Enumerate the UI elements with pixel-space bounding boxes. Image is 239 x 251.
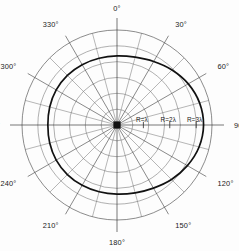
spoke-315deg	[50, 58, 117, 125]
angle-label-0: 0°	[113, 4, 120, 13]
spoke-45deg	[117, 58, 184, 125]
angle-label-120: 120°	[217, 179, 233, 188]
angle-label-150: 150°	[175, 221, 191, 230]
radial-label-1: R=λ	[136, 116, 149, 123]
polar-chart-figure: 0°30°60°90°120°150°180°210°240°270°300°3…	[0, 0, 239, 251]
spoke-240deg	[28, 125, 117, 177]
radial-label-3: R=3λ	[187, 116, 203, 123]
spoke-300deg	[28, 73, 117, 125]
spoke-210deg	[65, 125, 117, 214]
radial-label-2: R=2λ	[161, 116, 177, 123]
spoke-120deg	[117, 125, 206, 177]
spoke-30deg	[117, 36, 169, 125]
angle-label-300: 300°	[0, 62, 16, 71]
spoke-225deg	[50, 125, 117, 192]
spoke-330deg	[65, 36, 117, 125]
spoke-135deg	[117, 125, 184, 192]
angle-label-330: 330°	[43, 20, 59, 29]
radial-label-group: R=λR=2λR=3λ	[136, 116, 203, 123]
polar-plot-canvas: 0°30°60°90°120°150°180°210°240°270°300°3…	[0, 0, 239, 251]
angle-label-90: 90°	[234, 121, 239, 130]
angle-label-240: 240°	[0, 179, 16, 188]
angle-label-30: 30°	[175, 20, 187, 29]
origin-marker	[113, 121, 120, 128]
angle-label-60: 60°	[217, 62, 229, 71]
angle-label-180: 180°	[109, 238, 125, 247]
spoke-150deg	[117, 125, 169, 214]
angle-label-210: 210°	[43, 221, 59, 230]
